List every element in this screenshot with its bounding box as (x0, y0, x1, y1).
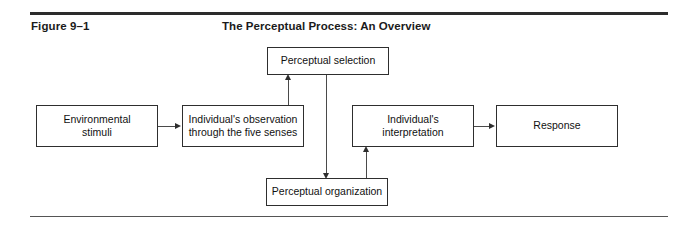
node-individual-observation-label-line2: through the five senses (189, 126, 298, 140)
node-environmental-stimuli-label-line1: Environmental (63, 113, 130, 127)
node-environmental-stimuli-label-line2: stimuli (63, 126, 130, 140)
arrow-right-icon-interpretation-to-response (489, 123, 495, 129)
figure-label: Figure 9–1 (31, 20, 90, 32)
node-perceptual-selection: Perceptual selection (267, 47, 389, 75)
footer-rule-bottom (30, 216, 668, 217)
node-response-label: Response (533, 119, 580, 133)
node-perceptual-organization-label: Perceptual organization (272, 185, 382, 199)
arrow-right-icon-stimuli-to-observation (175, 123, 181, 129)
node-environmental-stimuli: Environmental stimuli (36, 105, 158, 147)
connector-observation-to-selection (288, 78, 289, 105)
node-individual-interpretation-label-line2: interpretation (382, 126, 443, 140)
node-perceptual-organization: Perceptual organization (266, 178, 388, 206)
connector-interpretation-to-response (474, 126, 490, 127)
connector-stimuli-to-observation (158, 126, 176, 127)
node-individual-observation: Individual's observation through the fiv… (182, 105, 304, 147)
node-individual-observation-label-line1: Individual's observation (189, 113, 298, 127)
header-rule-top (30, 12, 668, 15)
node-individual-interpretation-label-line1: Individual's (382, 113, 443, 127)
node-perceptual-selection-label: Perceptual selection (281, 54, 376, 68)
node-response: Response (496, 105, 618, 147)
figure-title: The Perceptual Process: An Overview (222, 20, 430, 32)
connector-organization-to-interpretation (366, 151, 367, 178)
node-individual-interpretation: Individual's interpretation (352, 105, 474, 147)
connector-selection-to-organization (326, 75, 327, 174)
